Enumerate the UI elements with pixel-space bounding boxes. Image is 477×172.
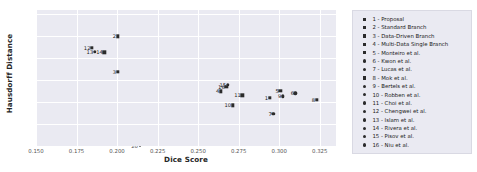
data-point-label: 7 — [268, 111, 273, 117]
x-tick-label: 0.275 — [219, 148, 259, 154]
x-tick-label: 0.300 — [259, 148, 299, 154]
legend-marker-icon — [363, 26, 366, 29]
legend-item-label: 11 - Choi et al. — [372, 99, 412, 107]
gridline-horizontal — [36, 124, 336, 125]
legend-marker-icon — [363, 59, 366, 62]
data-point-label: 2 — [113, 33, 118, 39]
legend-marker-icon — [363, 85, 366, 88]
gridline-vertical — [36, 10, 37, 146]
legend-item-label: 8 - Mok et al. — [372, 74, 407, 82]
legend-marker-icon — [363, 51, 366, 54]
x-tick-label: 0.150 — [16, 148, 56, 154]
data-point-label: 16 — [218, 84, 226, 90]
legend-item-label: 16 - Niu et al. — [372, 141, 409, 149]
legend-item[interactable]: 4 - Multi-Data Single Branch — [357, 40, 467, 48]
legend-item[interactable]: 7 - Lucas et al. — [357, 65, 467, 73]
legend-item-label: 5 - Monteiro et al. — [372, 49, 420, 57]
legend-item[interactable]: 3 - Data-Driven Branch — [357, 32, 467, 40]
legend-marker-icon — [363, 135, 366, 138]
data-point-label: 13 — [87, 49, 95, 55]
legend-item-label: 12 - Chengwei et al. — [372, 107, 426, 115]
legend-marker-icon — [363, 43, 366, 46]
legend-item-label: 9 - Bertels et al. — [372, 82, 415, 90]
legend-item[interactable]: 2 - Standard Branch — [357, 23, 467, 31]
data-point-label: 6 — [291, 90, 296, 96]
gridline-horizontal — [36, 80, 336, 81]
legend-marker-icon — [363, 118, 366, 121]
legend-item-label: 3 - Data-Driven Branch — [372, 32, 434, 40]
data-point-label: 8 — [312, 97, 317, 103]
legend-marker-icon — [363, 127, 366, 130]
legend-item-label: 6 - Kwon et al. — [372, 57, 411, 65]
legend-marker-icon — [363, 68, 366, 71]
legend-item[interactable]: 13 - Islam et al. — [357, 116, 467, 124]
legend-item-label: 2 - Standard Branch — [372, 23, 426, 31]
legend-item[interactable]: 10 - Robben et al. — [357, 91, 467, 99]
legend-marker-icon — [363, 34, 366, 37]
y-axis-label-text: Hausdorff Distance — [6, 33, 15, 113]
legend-item-label: 1 - Proposal — [372, 15, 404, 23]
gridline-vertical — [279, 10, 280, 146]
x-tick-label: 0.175 — [57, 148, 97, 154]
legend-item[interactable]: 9 - Bertels et al. — [357, 82, 467, 90]
legend-item[interactable]: 6 - Kwon et al. — [357, 57, 467, 65]
legend-item[interactable]: 14 - Rivera et al. — [357, 124, 467, 132]
legend-item[interactable]: 12 - Chengwei et al. — [357, 107, 467, 115]
legend-marker-icon — [363, 18, 366, 21]
x-tick-label: 0.250 — [178, 148, 218, 154]
legend-marker-icon — [363, 93, 366, 96]
x-tick-label: 0.325 — [300, 148, 340, 154]
data-point-label: 10 — [224, 102, 232, 108]
x-tick-label: 0.225 — [138, 148, 178, 154]
gridline-vertical — [117, 10, 118, 146]
data-point-label: 14 — [96, 49, 104, 55]
legend-item[interactable]: 8 - Mok et al. — [357, 74, 467, 82]
legend-item[interactable]: 16 - Niu et al. — [357, 141, 467, 149]
gridline-vertical — [239, 10, 240, 146]
gridline-horizontal — [36, 102, 336, 103]
legend-item[interactable]: 11 - Choi et al. — [357, 99, 467, 107]
plot-area: 12345678910111213141516 — [36, 10, 336, 146]
data-point-label: 9 — [278, 93, 283, 99]
x-axis-label: Dice Score — [36, 155, 336, 164]
gridline-horizontal — [36, 14, 336, 15]
gridline-vertical — [158, 10, 159, 146]
gridline-horizontal — [36, 58, 336, 59]
legend-item-label: 15 - Pisov et al. — [372, 132, 414, 140]
legend-marker-icon — [363, 76, 366, 79]
legend-item-label: 10 - Robben et al. — [372, 91, 420, 99]
legend-item-label: 14 - Rivera et al. — [372, 124, 417, 132]
legend-marker-icon — [363, 143, 366, 146]
legend-marker-icon — [363, 101, 366, 104]
legend-item-label: 7 - Lucas et al. — [372, 65, 412, 73]
x-tick-label: 0.200 — [97, 148, 137, 154]
gridline-horizontal — [36, 36, 336, 37]
legend-marker-icon — [363, 110, 366, 113]
data-point-label: 3 — [113, 69, 118, 75]
scatter-plot-figure: Hausdorff Distance Dice Score 2030405060… — [0, 0, 477, 172]
gridline-vertical — [77, 10, 78, 146]
legend-item[interactable]: 1 - Proposal — [357, 15, 467, 23]
legend-item-label: 13 - Islam et al. — [372, 116, 414, 124]
data-point-label: 1 — [265, 95, 270, 101]
legend-item-label: 4 - Multi-Data Single Branch — [372, 40, 448, 48]
legend: 1 - Proposal2 - Standard Branch3 - Data-… — [352, 10, 472, 154]
y-axis-label: Hausdorff Distance — [2, 0, 18, 146]
gridline-vertical — [198, 10, 199, 146]
legend-item[interactable]: 5 - Monteiro et al. — [357, 49, 467, 57]
gridline-vertical — [320, 10, 321, 146]
data-point-label: 11 — [234, 92, 242, 98]
legend-item[interactable]: 15 - Pisov et al. — [357, 132, 467, 140]
